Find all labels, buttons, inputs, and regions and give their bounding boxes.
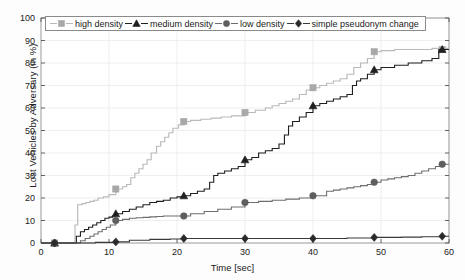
tick-label-x: 60 xyxy=(444,247,454,257)
legend-line xyxy=(141,23,148,24)
legend-item-high-density: high density xyxy=(50,18,125,29)
y-axis-label: Lost Vehicles by Adversary (in %) xyxy=(27,21,38,211)
data-marker xyxy=(310,85,316,91)
legend: high densitymedium densitylow densitysim… xyxy=(45,16,426,31)
legend-line xyxy=(66,23,73,24)
triangle-icon xyxy=(132,18,141,29)
legend-label: medium density xyxy=(148,19,215,29)
data-marker xyxy=(181,213,188,220)
chart-canvas: 01020304050607080901000102030405060 xyxy=(0,0,465,280)
tick-label-y: 10 xyxy=(25,216,35,226)
data-marker xyxy=(242,109,248,115)
tick-label-x: 50 xyxy=(376,247,386,257)
legend-label: low density xyxy=(238,19,287,29)
tick-label-x: 10 xyxy=(104,247,114,257)
circle-icon xyxy=(222,18,231,29)
data-marker xyxy=(310,192,317,199)
data-marker xyxy=(113,186,119,192)
data-marker xyxy=(113,217,120,224)
legend-line xyxy=(125,23,132,24)
data-marker xyxy=(181,118,187,124)
square-icon xyxy=(57,18,66,29)
legend-line xyxy=(215,23,222,24)
legend-label: simple pseudonym change xyxy=(310,19,421,29)
legend-line xyxy=(50,23,57,24)
legend-item-medium-density: medium density xyxy=(125,18,215,29)
tick-label-x: 30 xyxy=(240,247,250,257)
legend-item-simple-pseudonym-change: simple pseudonym change xyxy=(287,18,421,29)
x-axis-label: Time [sec] xyxy=(0,262,465,273)
legend-line xyxy=(287,23,294,24)
data-marker xyxy=(371,49,377,55)
diamond-icon xyxy=(294,18,303,29)
tick-label-x: 20 xyxy=(172,247,182,257)
legend-label: high density xyxy=(73,19,125,29)
legend-line xyxy=(231,23,238,24)
figure: 01020304050607080901000102030405060 Lost… xyxy=(0,0,465,280)
legend-item-low-density: low density xyxy=(215,18,287,29)
tick-label-x: 40 xyxy=(308,247,318,257)
legend-line xyxy=(303,23,310,24)
tick-label-x: 0 xyxy=(38,247,43,257)
data-marker xyxy=(371,179,378,186)
data-marker xyxy=(439,161,446,168)
tick-label-y: 0 xyxy=(30,238,35,248)
data-marker xyxy=(242,199,249,206)
